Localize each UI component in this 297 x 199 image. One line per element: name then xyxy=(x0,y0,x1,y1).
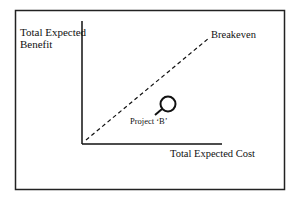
project-b-label: Project ‘B’ xyxy=(130,116,168,126)
diagram-canvas: Total Expected Benefit Breakeven Project… xyxy=(0,0,297,199)
x-axis-label: Total Expected Cost xyxy=(170,148,255,159)
y-axis-label-line1: Total Expected xyxy=(20,26,87,38)
y-axis-label-line2: Benefit xyxy=(20,38,52,50)
breakeven-label: Breakeven xyxy=(211,29,257,40)
